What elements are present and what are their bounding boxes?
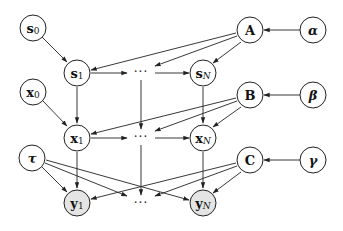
node-yN: yN: [190, 190, 216, 216]
s-row-ellipsis: ···: [134, 65, 148, 79]
node-s1: s1: [64, 60, 90, 86]
node-sN: sN: [190, 60, 216, 86]
edge-A-s1: [91, 33, 236, 70]
edge-x0-x1: [43, 101, 67, 126]
svg-text:γ: γ: [309, 153, 319, 168]
node-x0: x0: [20, 79, 46, 105]
edge-A-sN: [213, 42, 241, 63]
svg-text:α: α: [308, 23, 318, 38]
svg-text:B: B: [245, 88, 256, 103]
node-xN: xN: [190, 125, 216, 151]
node-C: C: [237, 147, 263, 173]
x-row-ellipsis: ···: [134, 130, 148, 144]
edge-B-xN: [213, 107, 241, 127]
svg-text:β: β: [308, 88, 318, 103]
node-tau: τ: [19, 145, 45, 171]
edge-C-y1: [91, 163, 236, 199]
svg-text:C: C: [245, 153, 255, 168]
node-alpha: α: [300, 17, 326, 43]
node-y1: y1: [64, 190, 90, 216]
svg-text:A: A: [244, 23, 256, 38]
node-B: B: [237, 82, 263, 108]
node-s0: s0: [20, 15, 46, 41]
node-x1: x1: [64, 125, 90, 151]
svg-text:τ: τ: [28, 151, 37, 166]
edge-B-x1: [91, 98, 236, 134]
node-gamma: γ: [300, 147, 326, 173]
node-beta: β: [300, 82, 326, 108]
y-row-ellipsis: ···: [134, 196, 148, 210]
graphical-model-diagram: ··· ··· ··· s0 s1 sN x0 x1 xN τ y1 yN A: [0, 0, 343, 231]
edge-C-yN: [213, 172, 241, 193]
node-A: A: [237, 17, 263, 43]
edge-s0-s1: [42, 37, 67, 62]
edges: [42, 30, 300, 200]
